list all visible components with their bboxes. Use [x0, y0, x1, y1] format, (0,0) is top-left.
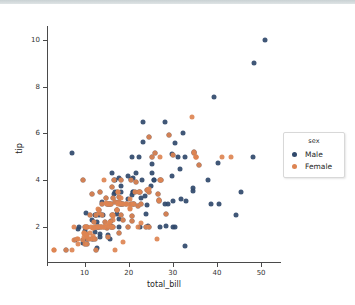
data-point — [131, 189, 136, 194]
data-point — [85, 234, 90, 239]
data-point — [149, 154, 154, 159]
data-point — [84, 242, 89, 247]
data-point — [118, 201, 123, 206]
x-tick-label: 30 — [168, 269, 177, 277]
data-point — [110, 184, 115, 189]
data-point — [111, 178, 116, 183]
data-point — [172, 224, 177, 229]
data-point — [103, 201, 108, 206]
data-point — [154, 236, 159, 241]
x-tick-label: 40 — [213, 269, 222, 277]
data-point — [111, 213, 116, 218]
data-point — [144, 212, 149, 217]
data-point — [84, 232, 89, 237]
data-point — [104, 225, 109, 230]
data-point — [63, 248, 68, 253]
data-point — [156, 198, 161, 203]
data-point — [97, 190, 102, 195]
data-point — [85, 237, 90, 242]
data-point — [125, 224, 130, 229]
data-point — [106, 234, 111, 239]
data-point — [115, 212, 120, 217]
data-point — [95, 224, 100, 229]
data-point — [106, 201, 111, 206]
data-point — [118, 201, 123, 206]
data-point — [131, 201, 136, 206]
data-point — [127, 196, 132, 201]
data-point — [109, 224, 114, 229]
data-point — [148, 184, 153, 189]
data-point — [88, 230, 93, 235]
legend-box[interactable]: sex Male Female — [283, 132, 345, 178]
scatter-plot-area: 246810 1020304050 total_bill tip sex Mal… — [0, 4, 355, 305]
data-point — [125, 173, 130, 178]
data-point — [113, 189, 118, 194]
data-point — [129, 178, 134, 183]
data-point — [94, 248, 99, 253]
y-tick-label: 8 — [36, 83, 40, 91]
data-point — [103, 220, 108, 225]
legend-label-male: Male — [305, 150, 323, 159]
data-point — [147, 134, 152, 139]
data-point — [80, 178, 85, 183]
data-point — [125, 197, 130, 202]
data-point — [178, 166, 183, 171]
data-point — [115, 189, 120, 194]
legend-label-female: Female — [305, 162, 332, 171]
data-point — [72, 238, 77, 243]
data-point — [114, 207, 119, 212]
data-point — [89, 192, 94, 197]
data-point — [192, 150, 197, 155]
data-point — [96, 207, 101, 212]
data-point — [99, 224, 104, 229]
data-point — [107, 201, 112, 206]
legend-item-female[interactable]: Female — [289, 160, 339, 172]
data-point — [119, 201, 124, 206]
data-point — [95, 224, 100, 229]
data-point — [119, 201, 124, 206]
data-point — [114, 208, 119, 213]
data-point — [90, 233, 95, 238]
data-point — [129, 214, 134, 219]
data-point — [100, 213, 105, 218]
data-point — [100, 213, 105, 218]
data-point — [194, 154, 199, 159]
data-point — [133, 189, 138, 194]
data-point — [147, 134, 152, 139]
data-point — [151, 178, 156, 183]
data-point — [84, 242, 89, 247]
data-point — [206, 178, 211, 183]
data-point — [96, 213, 101, 218]
data-point — [83, 232, 88, 237]
data-point — [129, 214, 134, 219]
data-point — [164, 223, 169, 228]
data-point — [117, 230, 122, 235]
x-tick-mark — [173, 263, 174, 267]
data-point — [96, 224, 101, 229]
data-point — [110, 213, 115, 218]
data-point — [119, 201, 124, 206]
data-point — [91, 225, 96, 230]
data-point — [145, 224, 150, 229]
data-point — [178, 197, 183, 202]
data-point — [136, 204, 141, 209]
data-point — [83, 232, 88, 237]
data-point — [156, 198, 161, 203]
data-point — [162, 201, 167, 206]
data-point — [106, 201, 111, 206]
data-point — [87, 236, 92, 241]
legend-marker-female-icon — [292, 164, 297, 169]
data-point — [116, 195, 121, 200]
data-point — [157, 198, 162, 203]
data-point — [106, 201, 111, 206]
data-point — [92, 220, 97, 225]
legend-item-male[interactable]: Male — [289, 148, 339, 160]
data-point — [110, 224, 115, 229]
data-point — [94, 213, 99, 218]
data-point — [81, 231, 86, 236]
data-point — [106, 224, 111, 229]
data-point — [76, 226, 81, 231]
data-point — [104, 201, 109, 206]
data-point — [111, 196, 116, 201]
data-point — [138, 224, 143, 229]
